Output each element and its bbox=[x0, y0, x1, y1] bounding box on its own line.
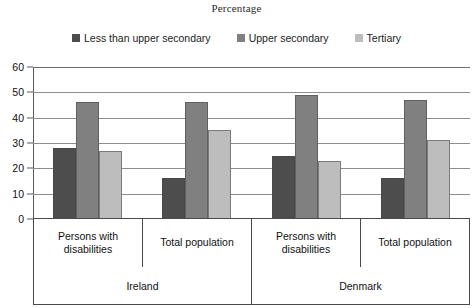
country-label-denmark: Denmark bbox=[251, 267, 469, 304]
y-axis: 6050403020100 bbox=[0, 67, 29, 219]
y-tick-label-30: 30 bbox=[12, 137, 24, 149]
bar-g0-s1[interactable] bbox=[76, 102, 99, 219]
category-label-3: Total population bbox=[360, 219, 469, 267]
legend-item-less-than-upper-secondary: Less than upper secondary bbox=[72, 33, 211, 44]
y-tick-label-50: 50 bbox=[12, 86, 24, 98]
category-label-0: Persons with disabilities bbox=[34, 219, 142, 267]
chart-title: Percentage bbox=[0, 2, 473, 14]
bar-group-1 bbox=[142, 67, 251, 219]
y-tick-label-20: 20 bbox=[12, 162, 24, 174]
y-tick-label-60: 60 bbox=[12, 61, 24, 73]
chart-legend: Less than upper secondary Upper secondar… bbox=[0, 33, 473, 44]
legend-item-upper-secondary: Upper secondary bbox=[237, 33, 329, 44]
category-label-1: Total population bbox=[142, 219, 251, 267]
legend-swatch-less-than-upper-secondary bbox=[72, 34, 80, 42]
bar-group-0 bbox=[33, 67, 142, 219]
bar-g2-s0[interactable] bbox=[272, 156, 295, 219]
y-tick-label-10: 10 bbox=[12, 188, 24, 200]
y-tick-label-40: 40 bbox=[12, 112, 24, 124]
legend-label-upper-secondary: Upper secondary bbox=[249, 33, 329, 44]
category-label-2: Persons with disabilities bbox=[251, 219, 360, 267]
y-tick-label-0: 0 bbox=[18, 213, 24, 225]
bar-g1-s0[interactable] bbox=[162, 178, 185, 219]
legend-item-tertiary: Tertiary bbox=[355, 33, 401, 44]
bar-g2-s2[interactable] bbox=[318, 161, 341, 219]
bar-g3-s0[interactable] bbox=[381, 178, 404, 219]
bar-g3-s2[interactable] bbox=[427, 140, 450, 219]
bar-g1-s1[interactable] bbox=[185, 102, 208, 219]
legend-label-tertiary: Tertiary bbox=[367, 33, 401, 44]
legend-label-less-than-upper-secondary: Less than upper secondary bbox=[84, 33, 211, 44]
bar-g1-s2[interactable] bbox=[208, 130, 231, 219]
bar-g0-s0[interactable] bbox=[53, 148, 76, 219]
legend-swatch-tertiary bbox=[355, 34, 363, 42]
bar-g2-s1[interactable] bbox=[295, 95, 318, 219]
bar-g3-s1[interactable] bbox=[404, 100, 427, 219]
legend-swatch-upper-secondary bbox=[237, 34, 245, 42]
bar-groups bbox=[33, 67, 470, 219]
bar-group-3 bbox=[361, 67, 470, 219]
category-main-row: IrelandDenmark bbox=[34, 267, 469, 304]
plot-area bbox=[33, 67, 470, 219]
bar-group-2 bbox=[252, 67, 361, 219]
country-label-ireland: Ireland bbox=[34, 267, 251, 304]
bar-g0-s2[interactable] bbox=[99, 151, 122, 219]
category-label-table: Persons with disabilitiesTotal populatio… bbox=[33, 219, 470, 305]
category-sub-row: Persons with disabilitiesTotal populatio… bbox=[34, 219, 469, 267]
